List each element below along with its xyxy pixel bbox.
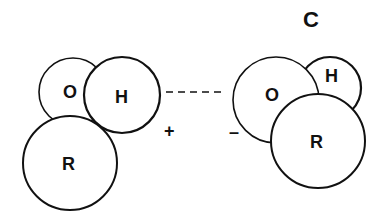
left-molecule [23,57,160,210]
minus-charge: – [229,122,239,142]
plus-charge: + [164,121,175,141]
right-o-label: O [265,85,279,105]
right-r-label: R [310,132,323,152]
diagram: O H R + O H R – C [0,0,382,223]
left-o-label: O [63,82,77,102]
left-h-label: H [115,87,128,107]
right-h-label: H [325,66,338,86]
panel-label: C [303,7,319,32]
left-r-label: R [62,154,75,174]
right-molecule [233,57,365,188]
hydrogen-bond-diagram: O H R + O H R – C [0,0,382,223]
